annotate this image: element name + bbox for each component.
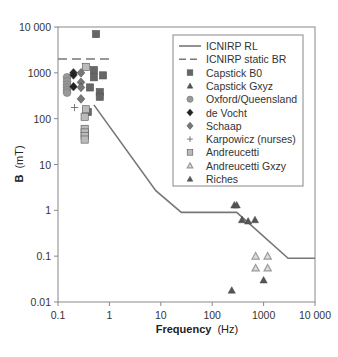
- series-karpowicz-nurses-: [71, 104, 78, 111]
- triangle-outline-marker-icon: [252, 264, 259, 270]
- x-tick-label: 10 000: [299, 309, 331, 321]
- y-axis-title: B: [13, 175, 25, 183]
- square-marker-icon: [187, 150, 193, 156]
- square-marker-icon: [90, 74, 97, 81]
- legend-label: Oxford/Queensland: [206, 93, 297, 105]
- series-riches: [228, 277, 267, 294]
- diamond-marker-icon: [77, 94, 85, 103]
- square-marker-icon: [92, 30, 99, 37]
- triangle-marker-icon: [260, 277, 267, 283]
- legend-label: ICNIRP static BR: [206, 53, 287, 65]
- legend-label: Schaap: [206, 120, 242, 132]
- triangle-marker-icon: [251, 216, 258, 222]
- series-andreucetti-gxzy: [252, 253, 271, 271]
- x-tick-label: 100: [203, 309, 221, 321]
- x-tick-label: 1000: [252, 309, 276, 321]
- series-oxford-queensland: [63, 73, 71, 96]
- square-marker-icon: [86, 84, 93, 91]
- square-marker-icon: [82, 106, 89, 113]
- triangle-marker-icon: [228, 287, 235, 293]
- x-tick-label: 1: [106, 309, 112, 321]
- legend-label: Capstick Gxyz: [206, 80, 273, 92]
- chart-canvas: 0.1110100100010 0000.010.1110100100010 0…: [0, 0, 338, 357]
- series-schaap: [77, 68, 85, 103]
- circle-marker-icon: [63, 89, 71, 97]
- triangle-outline-marker-icon: [252, 253, 259, 259]
- y-tick-label: 1: [45, 204, 51, 216]
- y-tick-label: 10 000: [19, 21, 51, 33]
- legend-label: de Vocht: [206, 107, 247, 119]
- square-marker-icon: [81, 136, 88, 143]
- y-tick-label: 0.1: [36, 250, 51, 262]
- legend-label: Riches: [206, 173, 238, 185]
- legend-label: Andreucetti: [206, 146, 259, 158]
- triangle-outline-marker-icon: [264, 264, 271, 270]
- series-capstick-b0: [84, 30, 106, 115]
- square-marker-icon: [99, 72, 106, 79]
- legend: ICNIRP RLICNIRP static BRCapstick B0Caps…: [173, 35, 303, 186]
- legend-label: ICNIRP RL: [206, 40, 258, 52]
- chart: 0.1110100100010 0000.010.1110100100010 0…: [0, 0, 338, 357]
- y-tick-label: 1000: [28, 67, 52, 79]
- diamond-marker-icon: [77, 83, 85, 92]
- plus-marker-icon: [71, 104, 78, 111]
- square-marker-icon: [90, 66, 97, 73]
- circle-marker-icon: [187, 96, 193, 102]
- square-marker-icon: [96, 93, 103, 100]
- y-tick-label: 0.01: [31, 296, 52, 308]
- square-marker-icon: [187, 70, 193, 76]
- square-marker-icon: [82, 63, 89, 70]
- legend-label: Andreucetti Gxzy: [206, 160, 287, 172]
- x-axis-title: Frequency: [156, 323, 213, 335]
- square-marker-icon: [81, 113, 88, 120]
- x-axis-label: Frequency (Hz): [156, 323, 238, 335]
- legend-label: Karpowicz (nurses): [206, 133, 296, 145]
- x-axis-unit: (Hz): [217, 323, 238, 335]
- x-tick-label: 10: [155, 309, 167, 321]
- y-tick-label: 10: [39, 159, 51, 171]
- triangle-outline-marker-icon: [264, 253, 271, 259]
- x-tick-label: 0.1: [51, 309, 66, 321]
- legend-label: Capstick B0: [206, 67, 262, 79]
- y-axis-label: B (mT): [13, 145, 25, 182]
- y-tick-label: 100: [33, 113, 51, 125]
- y-axis-unit: (mT): [13, 145, 25, 168]
